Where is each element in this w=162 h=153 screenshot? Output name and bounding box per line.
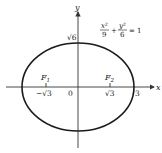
top-intercept-label: √6 <box>67 33 77 42</box>
x-axis-label: x <box>156 83 161 92</box>
svg-text:y²: y² <box>118 22 126 30</box>
svg-text:= 1: = 1 <box>129 27 142 35</box>
right-intercept-label: 3 <box>135 89 140 98</box>
svg-text:+: + <box>111 27 117 35</box>
focus2-label: F2 <box>104 73 115 83</box>
ellipse-diagram: y x √6 0 −√3 √3 3 F1 F2 x² 9 + y² 6 = 1 <box>0 0 162 153</box>
svg-text:6: 6 <box>120 31 125 39</box>
svg-text:x²: x² <box>101 22 108 30</box>
ellipse-equation: x² 9 + y² 6 = 1 <box>100 22 142 39</box>
y-axis-label: y <box>74 3 80 12</box>
origin-label: 0 <box>68 89 73 98</box>
neg-focus-x-label: −√3 <box>36 89 52 98</box>
focus1-label: F1 <box>40 73 50 83</box>
svg-text:9: 9 <box>102 31 106 39</box>
pos-focus-x-label: √3 <box>105 89 115 98</box>
